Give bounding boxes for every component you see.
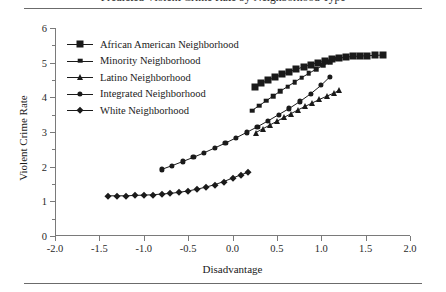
legend-item: Minority Neighborhood — [67, 53, 239, 70]
data-point-marker — [281, 114, 287, 120]
x-tick — [233, 236, 234, 241]
x-tick-label: -0.5 — [180, 243, 197, 254]
data-point-marker — [364, 52, 371, 59]
x-axis-title: Disadvantage — [55, 263, 410, 275]
figure-container: Predicted Violent Crime Rate by Neighbor… — [0, 0, 446, 292]
legend-label: African American Neighborhood — [100, 39, 239, 50]
y-tick-label: 2 — [42, 161, 47, 172]
x-tick — [410, 236, 411, 241]
x-tick-label: -1.5 — [91, 243, 108, 254]
y-axis-title: Violent Crime Rate — [17, 63, 29, 213]
data-point-marker — [357, 53, 364, 60]
legend-item: Latino Neighborhood — [67, 69, 239, 86]
legend-item: Integrated Neighborhood — [67, 86, 239, 103]
data-point-marker — [321, 63, 326, 68]
legend-item: White Neighborhood — [67, 102, 239, 119]
y-tick-label: 0 — [42, 231, 47, 242]
x-tick — [321, 236, 322, 241]
data-point-marker — [264, 99, 269, 104]
x-tick — [366, 236, 367, 241]
x-tick-label: 1.0 — [315, 243, 328, 254]
x-tick-label: 0.0 — [226, 243, 239, 254]
data-point-marker — [302, 103, 308, 109]
data-point-marker — [307, 71, 312, 76]
legend-item: African American Neighborhood — [67, 36, 239, 53]
data-point-marker — [336, 87, 342, 93]
data-point-marker — [250, 108, 255, 113]
data-point-marker — [285, 84, 290, 89]
data-point-marker — [350, 53, 357, 60]
data-point-marker — [324, 93, 330, 99]
data-point-marker — [380, 52, 387, 59]
data-point-marker — [328, 60, 333, 65]
x-tick — [55, 236, 56, 241]
top-divider-rule — [24, 8, 422, 9]
x-tick — [188, 236, 189, 241]
data-point-marker — [253, 130, 259, 136]
legend-label: White Neighborhood — [100, 105, 189, 116]
legend-label: Integrated Neighborhood — [100, 88, 206, 99]
data-point-marker — [314, 67, 319, 72]
data-point-marker — [335, 57, 340, 62]
x-tick-label: 2.0 — [403, 243, 416, 254]
data-point-marker — [279, 71, 286, 78]
y-tick-label: 5 — [42, 57, 47, 68]
y-tick-label: 1 — [42, 196, 47, 207]
y-tick-label: 3 — [42, 127, 47, 138]
x-tick — [277, 236, 278, 241]
y-tick-label: 6 — [42, 23, 47, 34]
legend-marker-icon — [67, 88, 93, 100]
data-point-marker — [299, 75, 304, 80]
data-point-marker — [293, 66, 300, 73]
chart-legend: African American NeighborhoodMinority Ne… — [67, 36, 239, 119]
y-tick-label: 4 — [42, 92, 47, 103]
legend-marker-icon — [67, 55, 93, 67]
x-tick — [99, 236, 100, 241]
data-point-marker — [265, 77, 272, 84]
x-tick-label: -1.0 — [135, 243, 152, 254]
data-point-marker — [274, 118, 280, 124]
data-point-marker — [292, 80, 297, 85]
data-point-marker — [257, 103, 262, 108]
legend-label: Minority Neighborhood — [100, 55, 201, 66]
data-point-marker — [309, 100, 315, 106]
data-point-marker — [295, 107, 301, 113]
legend-marker-icon — [67, 38, 93, 50]
data-point-marker — [300, 63, 307, 70]
data-point-marker — [316, 96, 322, 102]
data-point-marker — [278, 89, 283, 94]
data-point-marker — [371, 52, 378, 59]
data-point-marker — [257, 80, 264, 87]
bottom-divider-rule — [24, 283, 422, 284]
legend-marker-icon — [67, 104, 93, 116]
x-tick-label: -2.0 — [47, 243, 64, 254]
data-point-marker — [288, 111, 294, 117]
x-tick-label: 1.5 — [359, 243, 372, 254]
data-point-marker — [343, 54, 350, 61]
x-tick-label: 0.5 — [270, 243, 283, 254]
data-point-marker — [286, 68, 293, 75]
legend-marker-icon — [67, 71, 93, 83]
data-point-marker — [272, 74, 279, 81]
legend-label: Latino Neighborhood — [100, 72, 191, 83]
x-tick — [144, 236, 145, 241]
figure-title-clipped: Predicted Violent Crime Rate by Neighbor… — [24, 0, 422, 5]
data-point-marker — [260, 126, 266, 132]
data-point-marker — [271, 94, 276, 99]
